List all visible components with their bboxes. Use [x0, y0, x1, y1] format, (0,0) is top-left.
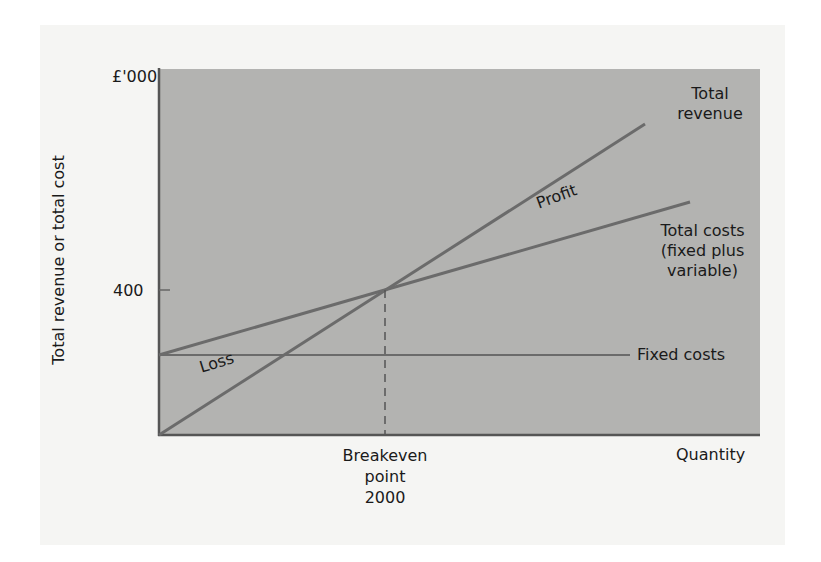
y-axis-label: Total revenue or total cost	[49, 155, 68, 364]
breakeven-label-line2: point	[330, 466, 440, 487]
total-revenue-label-line1: Total	[655, 84, 765, 104]
total-costs-label-line2: (fixed plus	[640, 241, 765, 261]
breakeven-label-line1: Breakeven	[330, 445, 440, 466]
breakeven-label: Breakeven point 2000	[330, 445, 440, 508]
total-revenue-label: Total revenue	[655, 84, 765, 124]
breakeven-label-line3: 2000	[330, 487, 440, 508]
fixed-costs-label: Fixed costs	[637, 345, 725, 365]
total-costs-label-line3: variable)	[640, 261, 765, 281]
total-costs-label: Total costs (fixed plus variable)	[640, 221, 765, 281]
x-axis-label: Quantity	[676, 445, 745, 465]
total-costs-label-line1: Total costs	[640, 221, 765, 241]
total-revenue-label-line2: revenue	[655, 104, 765, 124]
y-unit-label: £'000	[112, 67, 157, 87]
y-tick-label-400: 400	[113, 281, 144, 301]
